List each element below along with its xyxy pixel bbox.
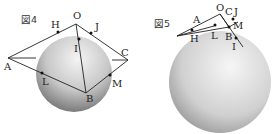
figure-5: 図5 O C J A M H L B I [154, 2, 271, 133]
label-I: I [232, 41, 236, 52]
label-A: A [192, 14, 201, 25]
figure-4-title: 図4 [21, 14, 37, 25]
label-H: H [51, 19, 60, 30]
label-J: J [94, 21, 99, 32]
label-I: I [74, 43, 78, 54]
label-O: O [216, 2, 224, 13]
label-C: C [225, 6, 233, 17]
label-O: O [73, 10, 81, 21]
label-B: B [86, 93, 93, 104]
label-H: H [190, 33, 199, 44]
figure-5-title: 図5 [154, 18, 170, 29]
label-M: M [112, 78, 122, 89]
label-C: C [121, 47, 129, 58]
figure-4: 図4 O H J I A C L M B [3, 10, 129, 112]
label-L: L [42, 76, 49, 87]
diagram-canvas: 図4 O H J I A C L M B 図5 [0, 0, 278, 134]
sphere-5 [169, 31, 271, 133]
label-L: L [211, 30, 218, 41]
label-M: M [233, 20, 243, 31]
label-J: J [233, 6, 238, 17]
label-A: A [3, 61, 12, 72]
